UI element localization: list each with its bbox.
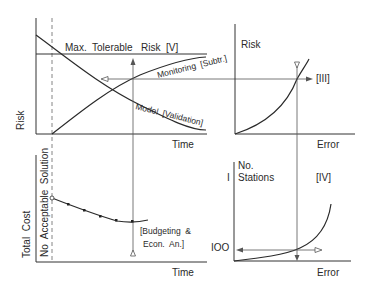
arrow-down-icon xyxy=(295,255,300,261)
budgeting-note-line1: [Budgeting & xyxy=(140,226,191,236)
panel-risk-vs-error: Risk [III] Error xyxy=(235,24,355,258)
error-axis-label: Error xyxy=(317,267,340,278)
triangle-marker-icon xyxy=(131,250,136,256)
tick-label-1: I xyxy=(227,172,230,183)
panel-iii-tag: [III] xyxy=(316,73,330,84)
arrow-left-icon xyxy=(236,248,243,253)
model-validation-label: Model [Validation] xyxy=(135,101,205,127)
arrow-right-icon xyxy=(306,77,313,82)
triangle-marker-icon xyxy=(315,248,322,253)
stations-error-curve xyxy=(234,204,331,261)
data-point xyxy=(115,219,118,222)
data-point xyxy=(131,220,134,223)
panel-cost-vs-time: Total Cost No Acceptable Solution [Budge… xyxy=(21,148,207,278)
data-point xyxy=(83,209,86,212)
arrow-up-icon xyxy=(131,58,136,65)
error-axis-label: Error xyxy=(317,139,340,150)
time-axis-label: Time xyxy=(172,267,194,278)
total-cost-axis-label: Total Cost xyxy=(21,211,32,258)
total-cost-curve xyxy=(52,198,148,222)
risk-axis-label: Risk xyxy=(15,110,26,130)
tick-label-100: IOO xyxy=(211,242,230,253)
max-tolerable-risk-label: Max. Tolerable Risk [V] xyxy=(65,42,178,53)
data-point xyxy=(99,215,102,218)
triangle-marker-icon xyxy=(295,62,300,68)
risk-axis-label: Risk xyxy=(241,39,261,50)
monitoring-label: Monitoring [Subtr.] xyxy=(156,53,228,80)
panel-stations-vs-error: No. Stations I IOO [IV] Error xyxy=(211,160,351,278)
stations-axis-label-line1: No. xyxy=(238,160,254,171)
risk-error-cost-diagram: Max. Tolerable Risk [V] Model [Validatio… xyxy=(0,0,370,289)
triangle-marker-icon xyxy=(101,77,108,82)
stations-axis-label-line2: Stations xyxy=(238,172,274,183)
data-point xyxy=(67,203,70,206)
time-axis-label: Time xyxy=(172,139,194,150)
budgeting-note-line2: Econ. An.] xyxy=(143,239,184,249)
panel-iv-tag: [IV] xyxy=(316,172,331,183)
no-acceptable-solution-label: No Acceptable Solution xyxy=(39,148,50,257)
risk-error-curve xyxy=(235,59,309,134)
start-point-marker xyxy=(50,196,54,200)
